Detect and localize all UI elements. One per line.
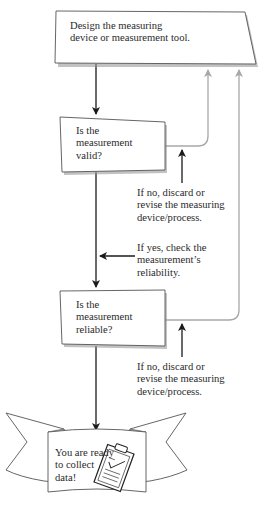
label-line: reliability. bbox=[137, 267, 206, 279]
reliable-box-text: Is the measurement reliable? bbox=[76, 299, 132, 336]
label-line: If no, discard or bbox=[137, 361, 225, 373]
ready-banner-text: You are ready to collect data! bbox=[55, 447, 114, 484]
label-line: revise the measuring bbox=[137, 199, 225, 211]
valid-box-text: Is the measurement valid? bbox=[76, 125, 132, 162]
valid-yes-label: If yes, check the measurement’s reliabil… bbox=[137, 242, 206, 279]
reliable-text-line: measurement bbox=[76, 311, 132, 323]
label-line: device/process. bbox=[137, 212, 225, 224]
feedback-loop-valid bbox=[165, 70, 208, 146]
label-line: measurement’s bbox=[137, 254, 206, 266]
label-line: If no, discard or bbox=[137, 187, 225, 199]
valid-no-label: If no, discard or revise the measuring d… bbox=[137, 187, 225, 224]
valid-text-line: Is the bbox=[76, 125, 132, 137]
valid-text-line: valid? bbox=[76, 150, 132, 162]
ready-text-line: You are ready bbox=[55, 447, 114, 459]
reliable-text-line: Is the bbox=[76, 299, 132, 311]
label-line: revise the measuring bbox=[137, 373, 225, 385]
ready-text-line: data! bbox=[55, 472, 114, 484]
flowchart-canvas bbox=[0, 0, 267, 518]
label-line: device/process. bbox=[137, 386, 225, 398]
reliable-no-label: If no, discard or revise the measuring d… bbox=[137, 361, 225, 398]
valid-text-line: measurement bbox=[76, 137, 132, 149]
design-text-line: device or measurement tool. bbox=[70, 32, 190, 44]
reliable-text-line: reliable? bbox=[76, 324, 132, 336]
design-text-line: Design the measuring bbox=[70, 20, 190, 32]
design-box-text: Design the measuring device or measureme… bbox=[70, 20, 190, 45]
label-line: If yes, check the bbox=[137, 242, 206, 254]
ready-text-line: to collect bbox=[55, 459, 114, 471]
